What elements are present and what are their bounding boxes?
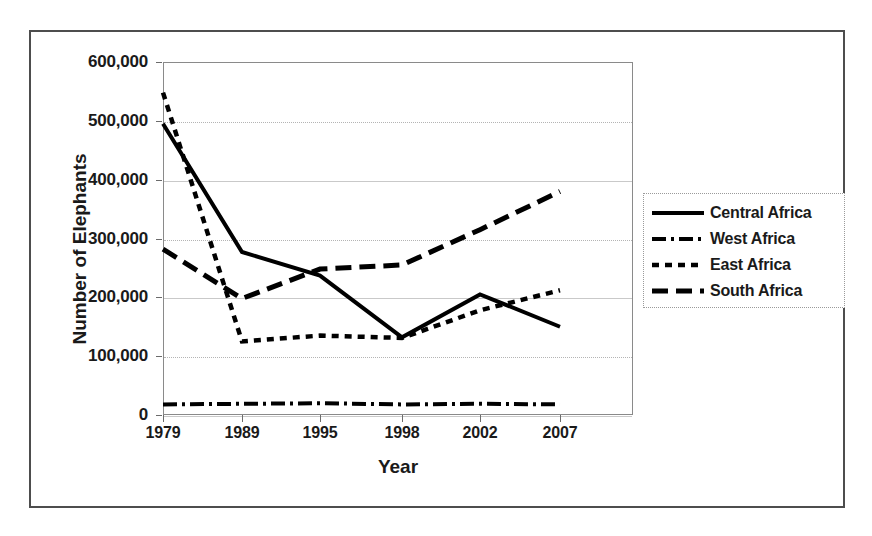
x-tick-mark — [320, 415, 321, 422]
x-tick-mark — [163, 415, 164, 422]
x-tick-label: 2002 — [440, 424, 520, 442]
x-axis-title: Year — [163, 456, 633, 478]
x-tick-label: 1998 — [362, 424, 442, 442]
legend-label: East Africa — [710, 256, 791, 274]
x-tick-label: 1979 — [123, 424, 203, 442]
legend-label: South Africa — [710, 282, 802, 300]
series-line — [163, 403, 560, 404]
x-tick-label: 1989 — [202, 424, 282, 442]
x-tick-mark — [560, 415, 561, 422]
legend-line-swatch — [650, 206, 706, 220]
line-chart: Number of Elephants 600,000500,000400,00… — [0, 0, 872, 536]
x-tick-mark — [402, 415, 403, 422]
x-tick-mark — [480, 415, 481, 422]
x-tick-mark — [242, 415, 243, 422]
x-tick-label: 2007 — [520, 424, 600, 442]
legend-line-swatch — [650, 232, 706, 246]
legend-item-south-africa[interactable]: South Africa — [650, 278, 844, 304]
chart-legend: Central AfricaWest AfricaEast AfricaSout… — [643, 193, 845, 308]
legend-item-west-africa[interactable]: West Africa — [650, 226, 844, 252]
legend-line-swatch — [650, 258, 706, 272]
legend-line-swatch — [650, 284, 706, 298]
legend-label: Central Africa — [710, 204, 812, 222]
legend-label: West Africa — [710, 230, 795, 248]
legend-item-east-africa[interactable]: East Africa — [650, 252, 844, 278]
x-tick-label: 1995 — [280, 424, 360, 442]
legend-item-central-africa[interactable]: Central Africa — [650, 200, 844, 226]
